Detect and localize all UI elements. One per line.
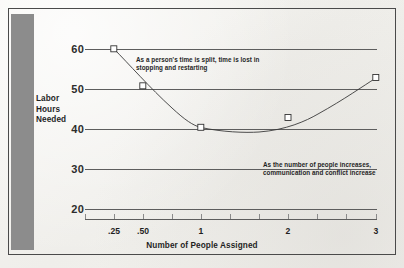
data-point-marker-0	[111, 46, 117, 52]
data-point-marker-3	[285, 115, 291, 121]
data-point-marker-4	[373, 75, 379, 81]
data-curve-layer	[0, 0, 404, 268]
data-series-curve	[114, 49, 376, 132]
figure-page: Labor Hours Needed 60 50 40 30 20 .25 .5…	[0, 0, 404, 268]
data-point-marker-1	[140, 83, 146, 89]
data-point-marker-2	[198, 124, 204, 130]
